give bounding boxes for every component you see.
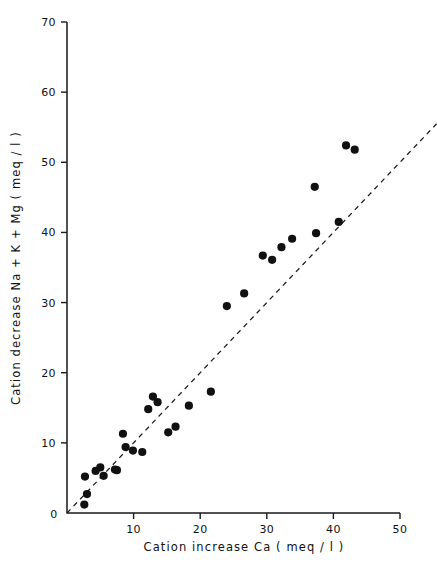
y-tick-label: 40 bbox=[41, 226, 56, 239]
data-point bbox=[144, 405, 152, 413]
x-tick-label: 0 bbox=[50, 508, 57, 521]
data-point bbox=[277, 243, 285, 251]
y-tick-label: 30 bbox=[41, 297, 56, 310]
x-tick-label: 20 bbox=[193, 523, 208, 536]
data-point bbox=[138, 448, 146, 456]
data-point bbox=[335, 218, 343, 226]
y-axis-tick-marks bbox=[61, 22, 67, 443]
x-tick-label: 40 bbox=[326, 523, 341, 536]
scatter-plot-figure: 01020304050 10203040506070 Cation increa… bbox=[0, 0, 437, 567]
x-tick-label: 10 bbox=[126, 523, 141, 536]
plot-canvas: 01020304050 10203040506070 Cation increa… bbox=[0, 0, 437, 567]
data-point bbox=[342, 141, 350, 149]
data-point bbox=[207, 388, 215, 396]
data-point bbox=[223, 302, 231, 310]
y-axis-tick-labels: 10203040506070 bbox=[41, 16, 56, 450]
axis-lines bbox=[67, 22, 400, 513]
data-point bbox=[83, 490, 91, 498]
y-tick-label: 70 bbox=[41, 16, 56, 29]
data-point bbox=[171, 423, 179, 431]
data-point bbox=[351, 146, 359, 154]
data-point bbox=[119, 430, 127, 438]
data-point bbox=[122, 443, 130, 451]
reference-trend-line bbox=[67, 124, 437, 513]
data-point bbox=[312, 229, 320, 237]
data-point-series bbox=[80, 141, 359, 508]
data-point bbox=[240, 289, 248, 297]
x-tick-label: 30 bbox=[259, 523, 274, 536]
x-axis-tick-labels: 01020304050 bbox=[50, 508, 407, 536]
data-point bbox=[80, 500, 88, 508]
data-point bbox=[185, 402, 193, 410]
x-axis-tick-marks bbox=[134, 513, 400, 519]
data-point bbox=[311, 183, 319, 191]
y-tick-label: 20 bbox=[41, 367, 56, 380]
y-tick-label: 10 bbox=[41, 437, 56, 450]
data-point bbox=[268, 256, 276, 264]
data-point bbox=[100, 472, 108, 480]
data-point bbox=[81, 472, 89, 480]
data-point bbox=[113, 466, 121, 474]
data-point bbox=[153, 398, 161, 406]
y-tick-label: 60 bbox=[41, 86, 56, 99]
y-axis-title: Cation decrease Na + K + Mg ( meq / l ) bbox=[9, 131, 23, 405]
data-point bbox=[164, 428, 172, 436]
data-point bbox=[259, 251, 267, 259]
data-point bbox=[288, 235, 296, 243]
y-tick-label: 50 bbox=[41, 156, 56, 169]
axes-group bbox=[61, 22, 400, 519]
x-axis-title: Cation increase Ca ( meq / l ) bbox=[144, 540, 345, 554]
data-point bbox=[96, 463, 104, 471]
x-tick-label: 50 bbox=[393, 523, 408, 536]
data-point bbox=[129, 446, 137, 454]
